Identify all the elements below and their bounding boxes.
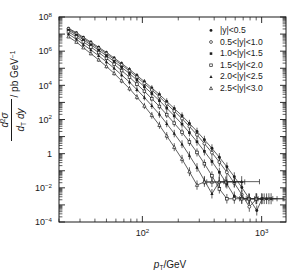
data-marker <box>67 35 70 38</box>
y-tick-label: 10−4 <box>35 216 53 227</box>
legend-item: |y|<0.5 <box>210 25 246 35</box>
legend-item: 0.5<|y|<1.0 <box>210 37 263 47</box>
data-marker <box>209 87 212 90</box>
y-tick-label: 106 <box>39 45 53 56</box>
data-marker <box>188 125 191 128</box>
data-marker <box>143 90 146 93</box>
data-marker <box>225 171 228 174</box>
svg-text:d2σ: d2σ <box>0 111 10 127</box>
y-tick-label: 1 <box>47 149 52 159</box>
data-marker <box>196 151 199 154</box>
legend-item-label: 1.5<|y|<2.0 <box>220 60 263 70</box>
data-marker <box>188 131 191 134</box>
legend-item-label: 2.5<|y|<3.0 <box>220 83 263 93</box>
data-marker <box>181 123 184 126</box>
data-marker <box>218 161 221 164</box>
x-tick-label: 103 <box>255 227 269 238</box>
data-marker <box>120 66 123 69</box>
data-marker <box>210 151 213 154</box>
data-marker <box>136 79 139 82</box>
data-marker <box>248 205 251 208</box>
data-marker <box>151 97 154 100</box>
data-marker <box>196 140 199 143</box>
y-axis-tick-labels: 108106104102110−210−4 <box>35 11 53 227</box>
data-marker <box>210 52 213 55</box>
data-marker <box>151 92 154 95</box>
data-marker <box>196 133 199 136</box>
y-tick-label: 102 <box>39 113 53 124</box>
data-marker <box>173 110 176 113</box>
data-marker <box>165 113 168 116</box>
legend-item: 2.5<|y|<3.0 <box>209 83 262 93</box>
legend-item: 1.0<|y|<1.5 <box>210 48 263 58</box>
data-marker <box>203 180 206 183</box>
plot-canvas: 102103 108106104102110−210−4 |y|<0.50.5<… <box>0 0 304 278</box>
data-marker <box>211 174 214 177</box>
svg-text:dT dy: dT dy <box>15 108 27 132</box>
data-marker <box>143 85 146 88</box>
data-marker <box>113 63 116 66</box>
svg-text:/ pb GeV−1: / pb GeV−1 <box>9 50 20 97</box>
data-marker <box>203 150 206 153</box>
jet-cross-section-figure: 102103 108106104102110−210−4 |y|<0.50.5<… <box>0 0 304 278</box>
y-tick-label: 108 <box>39 11 53 22</box>
data-marker <box>165 107 168 110</box>
legend-item: 2.0<|y|<2.5 <box>209 71 262 81</box>
x-tick-label: 102 <box>136 227 150 238</box>
data-marker <box>255 209 258 212</box>
data-marker <box>210 41 213 44</box>
data-marker <box>218 188 221 191</box>
data-series <box>67 35 245 190</box>
data-marker <box>203 162 206 165</box>
legend-item-label: 1.0<|y|<1.5 <box>220 48 263 58</box>
data-marker <box>158 99 161 102</box>
legend-item: 1.5<|y|<2.0 <box>210 60 263 70</box>
data-marker <box>210 64 213 67</box>
data-marker <box>120 69 123 72</box>
data-marker <box>128 72 131 75</box>
x-axis-label: pT/GeV <box>153 259 187 271</box>
data-marker <box>75 40 78 43</box>
y-axis-label: d2σ dT dy / pb GeV−1 <box>0 50 27 141</box>
data-marker <box>211 160 214 163</box>
legend-item-label: |y|<0.5 <box>220 25 246 35</box>
data-marker <box>210 29 213 32</box>
data-marker <box>181 131 184 134</box>
legend-item-label: 0.5<|y|<1.0 <box>220 37 263 47</box>
data-marker <box>128 76 131 79</box>
data-marker <box>90 46 93 49</box>
data-marker <box>173 122 176 125</box>
data-marker <box>97 51 100 54</box>
data-marker <box>188 141 191 144</box>
data-marker <box>181 117 184 120</box>
data-marker <box>226 197 229 200</box>
y-tick-label: 10−2 <box>35 182 53 193</box>
data-marker <box>203 142 206 145</box>
data-marker <box>209 75 212 78</box>
data-marker <box>136 83 139 86</box>
data-marker <box>105 57 108 60</box>
data-marker <box>165 102 168 105</box>
x-axis-tick-labels: 102103 <box>136 227 269 238</box>
data-marker <box>158 105 161 108</box>
legend-item-label: 2.0<|y|<2.5 <box>220 71 263 81</box>
data-marker <box>233 197 236 200</box>
data-marker <box>173 115 176 118</box>
data-marker <box>218 171 221 174</box>
y-tick-label: 104 <box>39 79 53 90</box>
svg-text:pT/GeV: pT/GeV <box>153 259 187 271</box>
data-marker <box>97 54 100 57</box>
legend: |y|<0.50.5<|y|<1.01.0<|y|<1.51.5<|y|<2.0… <box>209 25 262 93</box>
